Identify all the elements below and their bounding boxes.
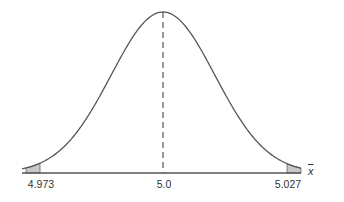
normal-curve	[22, 12, 301, 169]
normal-distribution-chart	[0, 0, 344, 202]
tick-label-right: 5.027	[275, 178, 301, 190]
x-bar-axis-label: x	[308, 165, 314, 177]
tick-label-center: 5.0	[157, 178, 172, 190]
tick-label-left: 4.973	[28, 178, 54, 190]
x-bar-symbol: x	[308, 165, 314, 177]
